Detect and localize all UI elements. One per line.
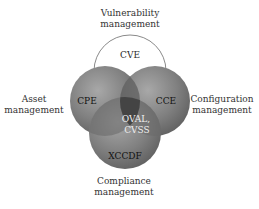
- caption-line: Configuration: [186, 94, 258, 105]
- center-label-line1: OVAL,: [122, 114, 150, 124]
- asset-management-caption: Asset management: [0, 94, 68, 116]
- configuration-management-caption: Configuration management: [186, 94, 258, 116]
- caption-line: management: [74, 187, 174, 198]
- compliance-management-caption: Compliance management: [74, 176, 174, 198]
- cve-label: CVE: [120, 50, 140, 60]
- venn-diagram: CVE CPE CCE XCCDF OVAL, CVSS Vulnerabili…: [0, 0, 259, 209]
- caption-line: Asset: [0, 94, 68, 105]
- cce-label: CCE: [156, 96, 176, 106]
- caption-line: Compliance: [74, 176, 174, 187]
- center-label-line2: CVSS: [124, 125, 150, 135]
- xccdf-label: XCCDF: [108, 151, 141, 161]
- caption-line: management: [80, 19, 180, 30]
- caption-line: Vulnerability: [80, 8, 180, 19]
- caption-line: management: [0, 105, 68, 116]
- caption-line: management: [186, 105, 258, 116]
- vulnerability-management-caption: Vulnerability management: [80, 8, 180, 30]
- cpe-label: CPE: [77, 96, 97, 106]
